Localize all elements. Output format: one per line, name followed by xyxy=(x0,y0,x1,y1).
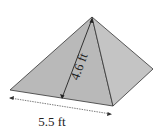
base-edge-label: 5.5 ft xyxy=(38,114,66,129)
base-dimension-arrow-right-icon xyxy=(107,112,112,116)
base-dimension-arrow-left-icon xyxy=(9,96,14,100)
pyramid-diagram: 4.6 ft 5.5 ft xyxy=(0,0,164,133)
